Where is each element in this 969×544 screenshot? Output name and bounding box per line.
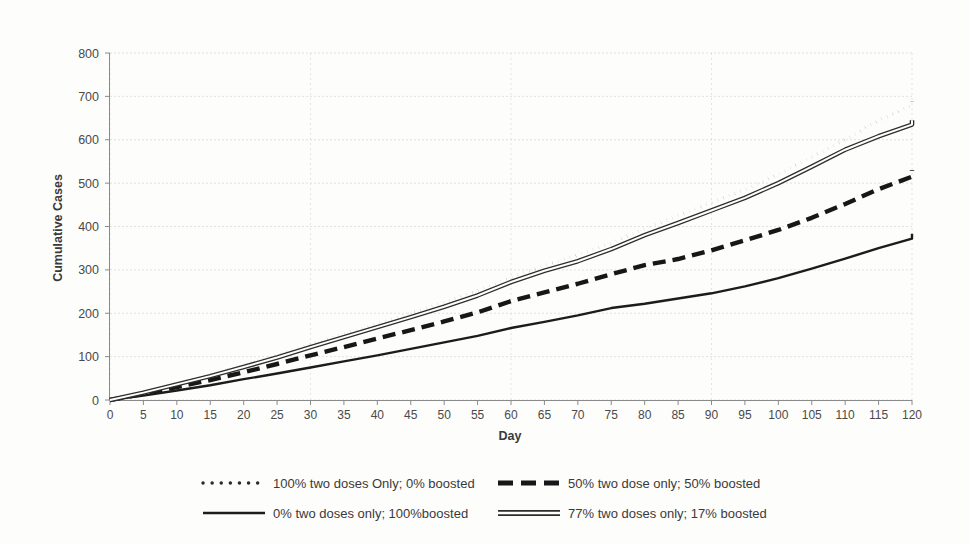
x-tick-label: 75 (605, 408, 619, 422)
x-tick-label: 95 (738, 408, 752, 422)
x-tick-label: 90 (705, 408, 719, 422)
legend-label: 0% two doses only; 100%boosted (273, 506, 468, 521)
cumulative-cases-line-chart: 0100200300400500600700800 05101520253035… (0, 0, 969, 544)
x-tick-label: 55 (471, 408, 485, 422)
legend-entry[interactable]: 50% two dose only; 50% boosted (498, 476, 760, 491)
x-tick-labels: 0510152025303540455055606570758085909510… (107, 408, 923, 422)
x-tick-label: 5 (140, 408, 147, 422)
y-tick-label: 700 (78, 90, 99, 104)
y-tick-label: 500 (78, 177, 99, 191)
y-tick-label: 400 (78, 220, 99, 234)
x-tick-label: 35 (337, 408, 351, 422)
legend-label: 50% two dose only; 50% boosted (568, 476, 760, 491)
x-tick-label: 10 (170, 408, 184, 422)
x-tick-label: 15 (204, 408, 218, 422)
legend-entry[interactable]: 77% two doses only; 17% boosted (498, 506, 767, 521)
x-tick-label: 80 (638, 408, 652, 422)
x-tick-label: 100 (768, 408, 788, 422)
legend-entry[interactable]: 0% two doses only; 100%boosted (203, 506, 468, 521)
y-tick-label: 300 (78, 263, 99, 277)
y-tick-label: 0 (92, 394, 99, 408)
x-tick-label: 30 (304, 408, 318, 422)
x-tick-label: 45 (404, 408, 418, 422)
x-axis-title: Day (499, 429, 522, 443)
x-tick-label: 40 (371, 408, 385, 422)
y-tick-labels: 0100200300400500600700800 (78, 47, 99, 408)
y-axis-title: Cumulative Cases (51, 174, 65, 282)
y-axis: 0100200300400500600700800 (78, 47, 110, 408)
legend-label: 77% two doses only; 17% boosted (568, 506, 767, 521)
x-tick-label: 60 (504, 408, 518, 422)
legend-entry[interactable]: 100% two doses Only; 0% boosted (203, 476, 475, 491)
x-tick-label: 120 (902, 408, 922, 422)
chart-canvas: 0100200300400500600700800 05101520253035… (0, 0, 969, 544)
x-tick-label: 70 (571, 408, 585, 422)
x-tick-label: 65 (538, 408, 552, 422)
x-tick-label: 85 (671, 408, 685, 422)
y-tick-label: 800 (78, 47, 99, 61)
y-tick-label: 100 (78, 350, 99, 364)
x-axis: 0510152025303540455055606570758085909510… (107, 400, 923, 422)
x-tick-label: 50 (437, 408, 451, 422)
legend-label: 100% two doses Only; 0% boosted (273, 476, 475, 491)
x-tick-label: 115 (869, 408, 888, 422)
x-tick-label: 0 (107, 408, 114, 422)
y-tick-label: 600 (78, 133, 99, 147)
x-tick-label: 110 (836, 408, 855, 422)
x-tick-label: 25 (270, 408, 284, 422)
x-tick-label: 20 (237, 408, 251, 422)
chart-legend: 100% two doses Only; 0% boosted50% two d… (203, 476, 767, 521)
y-tick-label: 200 (78, 307, 99, 321)
x-tick-label: 105 (802, 408, 822, 422)
